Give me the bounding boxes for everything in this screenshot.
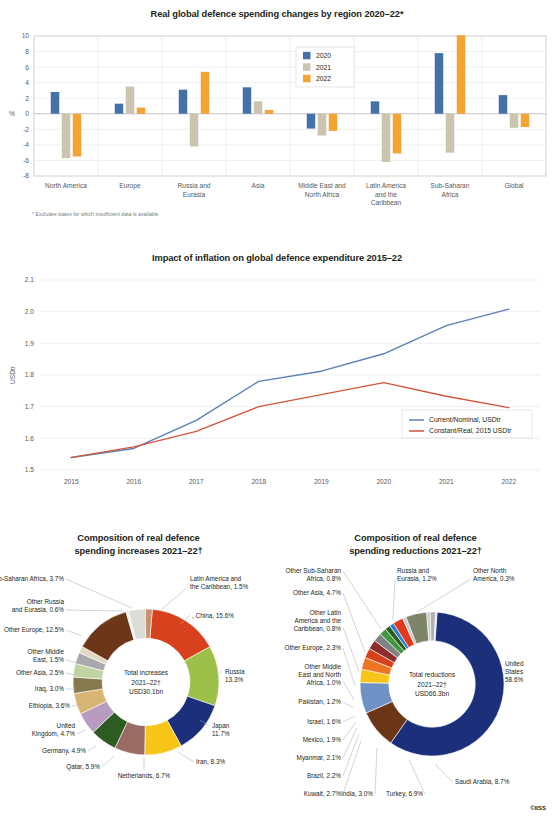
donut-slice-label: Caribbean, 0.8% xyxy=(293,625,341,632)
donut-slice-label: 13.3% xyxy=(225,676,243,683)
bar-rect xyxy=(137,108,146,114)
donut-slice-label: Latin America and xyxy=(190,575,242,582)
bar-legend-swatch xyxy=(303,52,311,60)
bar-chart-title: Real global defence spending changes by … xyxy=(0,9,554,19)
bar-x-tick-label: North Africa xyxy=(305,191,340,198)
bar-rect xyxy=(329,114,338,131)
bar-rect xyxy=(73,114,82,157)
bar-y-tick: -6 xyxy=(23,157,29,164)
bar-x-tick-label: Sub-Saharan xyxy=(431,182,470,189)
bar-y-tick: -8 xyxy=(23,172,29,179)
bar-y-tick: 4 xyxy=(25,79,29,86)
donut-reductions-svg: Total reductions2021–22†USD66.3bnUnitedS… xyxy=(277,556,554,817)
donut-slice-label: the Caribbean, 1.5% xyxy=(190,583,249,590)
donut-slice-label: Russia and xyxy=(397,567,429,574)
donut-slice-label: America and the xyxy=(294,617,341,624)
bar-rect xyxy=(510,114,519,128)
line-x-tick-label: 2022 xyxy=(501,478,516,485)
donut-slice-label: Other Middle xyxy=(27,648,64,655)
bar-y-tick: 2 xyxy=(25,95,29,102)
donut-slice-label: Brazil, 2.2% xyxy=(307,772,341,779)
bar-rect xyxy=(521,114,530,127)
bar-x-tick-label: and the xyxy=(375,191,397,198)
bar-x-tick-label: Eurasia xyxy=(183,191,206,198)
donut-slice-label: Other Sub-Saharan Africa, 3.7% xyxy=(0,575,64,582)
donut-leader-line xyxy=(393,579,395,620)
bar-rect xyxy=(371,101,380,113)
donut-center-label: Total increases xyxy=(124,669,169,676)
bar-legend-label: 2022 xyxy=(316,75,331,82)
bar-rect xyxy=(179,90,188,114)
donut-leader-line xyxy=(66,630,82,636)
donut-increases-title: Composition of real defence spending inc… xyxy=(0,532,277,557)
donut-slice-label: , China, 15.6% xyxy=(192,612,234,619)
donut-slice-label: Myanmar, 2.1% xyxy=(297,754,342,762)
line-x-tick-label: 2018 xyxy=(251,478,266,485)
donut-slice-label: 11.7% xyxy=(212,730,230,737)
line-y-tick: 1.7 xyxy=(25,403,34,410)
bar-chart-footnote: * Excludes states for which insufficient… xyxy=(32,211,159,217)
bar-rect xyxy=(307,114,316,129)
donut-slice-label: States xyxy=(505,668,523,675)
bar-y-tick: -2 xyxy=(23,126,29,133)
donut-leader-line xyxy=(343,648,355,686)
donut-increases-title-line2: spending increases 2021–22† xyxy=(74,546,202,556)
donut-slice-label: Kuwait, 2.7% xyxy=(304,790,342,797)
donut-leader-line xyxy=(343,728,357,758)
donut-slice-label: Other Asia, 2.5% xyxy=(16,669,64,676)
line-y-tick: 1.9 xyxy=(25,340,34,347)
donut-slice-label: Other Latin xyxy=(309,609,341,616)
line-y-tick: 1.5 xyxy=(25,466,34,473)
donut-slice-label: Other North xyxy=(473,567,507,574)
donut-reductions-block: Composition of real defence spending red… xyxy=(277,518,554,817)
donut-center-label: 2021–22† xyxy=(417,681,447,688)
donut-reductions-title-line1: Composition of real defence xyxy=(354,533,476,543)
bar-rect xyxy=(201,72,210,114)
donut-leader-line xyxy=(77,730,85,734)
donut-leader-line xyxy=(88,746,96,751)
donut-slice-label: Africa, 0.8% xyxy=(307,575,342,582)
bar-y-tick: 10 xyxy=(22,32,30,39)
bar-legend-swatch xyxy=(303,75,311,83)
donut-increases-block: Composition of real defence spending inc… xyxy=(0,518,277,817)
iiss-credit: ©IISS xyxy=(530,805,546,811)
donut-slice-label: Pakistan, 1.2% xyxy=(298,698,341,705)
bar-rect xyxy=(446,114,455,153)
donut-slice-label: and Eurasia, 0.6% xyxy=(12,606,65,613)
donut-leader-line xyxy=(343,627,359,672)
bar-rect xyxy=(382,114,391,162)
bar-legend-label: 2021 xyxy=(316,64,331,71)
donut-leader-line xyxy=(66,610,124,611)
bar-x-tick-label: Global xyxy=(504,182,524,189)
donut-reductions-title-line2: spending reductions 2021–22† xyxy=(349,546,482,556)
donut-slice-label: Turkey, 6.9% xyxy=(386,790,423,798)
donut-slice-label: 58.6% xyxy=(505,676,523,683)
line-chart-svg: 1.51.61.71.81.92.02.1USDtr20152016201720… xyxy=(0,270,554,510)
bar-rect xyxy=(393,114,402,154)
donut-slice-label: East, 1.5% xyxy=(33,656,64,663)
line-y-tick: 2.1 xyxy=(25,276,34,283)
line-legend-label: Constant/Real, 2015 USDtr xyxy=(429,427,512,434)
donut-center-label: USD30.1bn xyxy=(129,688,163,695)
donut-charts-panel: Composition of real defence spending inc… xyxy=(0,518,554,817)
bar-rect xyxy=(254,101,263,113)
donut-slice-label: Other Middle xyxy=(304,663,341,670)
donut-slice-label: Mexico, 1.9% xyxy=(303,736,342,743)
donut-slice-label: Saudi Arabia, 8.7% xyxy=(455,778,510,785)
donut-leader-line xyxy=(178,752,194,762)
bar-rect xyxy=(51,92,60,114)
bar-rect xyxy=(265,110,274,114)
bar-x-tick-label: Middle East and xyxy=(298,182,346,189)
donut-slice-label: America, 0.3% xyxy=(473,575,515,582)
donut-leader-line xyxy=(343,571,381,629)
donut-slice-label: Germany, 4.9% xyxy=(42,747,86,755)
bar-x-tick-label: Europe xyxy=(119,182,141,190)
bar-rect xyxy=(126,87,135,114)
donut-leader-line xyxy=(343,716,355,722)
donut-slice-label: Other Sub-Saharan xyxy=(286,567,342,574)
bar-chart-panel: Real global defence spending changes by … xyxy=(0,0,554,236)
donut-slice-label: Eurasia, 1.2% xyxy=(397,575,437,582)
bar-rect xyxy=(115,104,124,114)
line-x-tick-label: 2019 xyxy=(314,478,329,485)
bar-y-tick: 0 xyxy=(25,110,29,117)
